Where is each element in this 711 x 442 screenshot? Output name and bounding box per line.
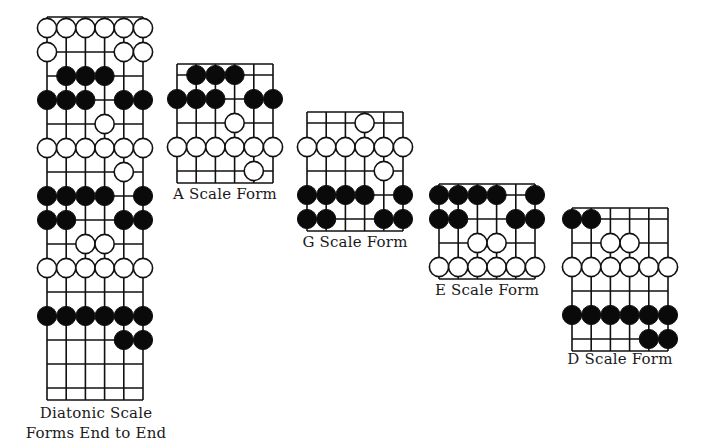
open-note-dot-icon [37,138,56,157]
root-note-dot-icon [167,89,186,108]
open-note-dot-icon [37,258,56,277]
g-scale-form-label: G Scale Form [302,233,407,251]
open-note-dot-icon [639,257,658,276]
end-to-end-label: Diatonic ScaleForms End to End [26,403,167,442]
open-note-dot-icon [468,257,487,276]
root-note-dot-icon [57,210,76,229]
root-note-dot-icon [37,210,56,229]
open-note-dot-icon [468,233,487,252]
label-line: A Scale Form [173,185,277,203]
root-note-dot-icon [297,209,316,228]
root-note-dot-icon [562,305,581,324]
root-note-dot-icon [76,306,95,325]
open-note-dot-icon [263,137,282,156]
open-note-dot-icon [95,114,114,133]
root-note-dot-icon [95,66,114,85]
root-note-dot-icon [37,186,56,205]
open-note-dot-icon [601,233,620,252]
open-note-dot-icon [133,138,152,157]
root-note-dot-icon [449,185,468,204]
root-note-dot-icon [658,305,677,324]
root-note-dot-icon [297,185,316,204]
open-note-dot-icon [506,257,525,276]
open-note-dot-icon [37,18,56,37]
open-note-dot-icon [225,137,244,156]
root-note-dot-icon [57,306,76,325]
open-note-dot-icon [114,42,133,61]
root-note-dot-icon [658,329,677,348]
root-note-dot-icon [206,89,225,108]
open-note-dot-icon [355,113,374,132]
root-note-dot-icon [429,209,448,228]
a-scale-form-label: A Scale Form [173,185,277,203]
open-note-dot-icon [95,18,114,37]
label-line: G Scale Form [302,233,407,251]
open-note-dot-icon [206,137,225,156]
root-note-dot-icon [76,186,95,205]
open-note-dot-icon [620,257,639,276]
e-scale-form-label: E Scale Form [435,281,539,299]
open-note-dot-icon [187,137,206,156]
label-line: D Scale Form [567,350,672,368]
root-note-dot-icon [225,65,244,84]
root-note-dot-icon [317,209,336,228]
fretboard-grid [47,17,167,424]
root-note-dot-icon [562,209,581,228]
open-note-dot-icon [76,18,95,37]
open-note-dot-icon [297,137,316,156]
root-note-dot-icon [506,209,525,228]
open-note-dot-icon [658,257,677,276]
open-note-dot-icon [57,18,76,37]
root-note-dot-icon [639,329,658,348]
label-line: E Scale Form [435,281,539,299]
open-note-dot-icon [76,234,95,253]
open-note-dot-icon [582,257,601,276]
root-note-dot-icon [76,66,95,85]
root-note-dot-icon [133,330,152,349]
open-note-dot-icon [133,18,152,37]
open-note-dot-icon [114,162,133,181]
root-note-dot-icon [374,209,393,228]
open-note-dot-icon [562,257,581,276]
root-note-dot-icon [76,90,95,109]
root-note-dot-icon [206,65,225,84]
open-note-dot-icon [167,137,186,156]
open-note-dot-icon [393,137,412,156]
open-note-dot-icon [37,42,56,61]
open-note-dot-icon [95,258,114,277]
open-note-dot-icon [76,258,95,277]
root-note-dot-icon [639,305,658,324]
open-note-dot-icon [487,257,506,276]
root-note-dot-icon [525,209,544,228]
root-note-dot-icon [114,306,133,325]
root-note-dot-icon [133,90,152,109]
d-scale-form-label: D Scale Form [567,350,672,368]
open-note-dot-icon [355,137,374,156]
root-note-dot-icon [582,305,601,324]
root-note-dot-icon [133,306,152,325]
root-note-dot-icon [57,90,76,109]
open-note-dot-icon [449,257,468,276]
root-note-dot-icon [114,210,133,229]
root-note-dot-icon [57,66,76,85]
root-note-dot-icon [317,185,336,204]
open-note-dot-icon [57,138,76,157]
root-note-dot-icon [582,209,601,228]
open-note-dot-icon [95,234,114,253]
open-note-dot-icon [244,137,263,156]
open-note-dot-icon [225,113,244,132]
root-note-dot-icon [133,186,152,205]
open-note-dot-icon [336,137,355,156]
root-note-dot-icon [393,209,412,228]
root-note-dot-icon [187,65,206,84]
root-note-dot-icon [525,185,544,204]
open-note-dot-icon [429,257,448,276]
label-line: Diatonic Scale [26,403,167,423]
open-note-dot-icon [114,138,133,157]
root-note-dot-icon [620,305,639,324]
label-line: Forms End to End [26,423,167,442]
open-note-dot-icon [57,258,76,277]
open-note-dot-icon [114,18,133,37]
root-note-dot-icon [57,186,76,205]
open-note-dot-icon [114,258,133,277]
